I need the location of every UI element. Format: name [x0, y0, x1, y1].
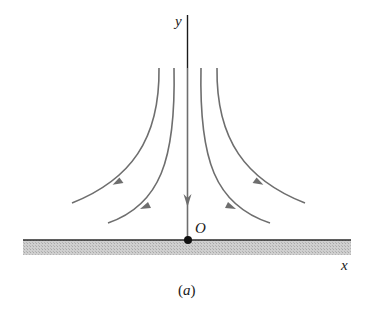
caption-close: ) [191, 282, 196, 298]
stagnation-flow-diagram [0, 0, 375, 314]
streamline-inner-left [108, 68, 174, 223]
caption-letter: a [183, 282, 191, 298]
origin-label: O [195, 221, 206, 236]
y-axis-label: y [175, 14, 182, 29]
arrow-outer-left-icon [112, 177, 124, 185]
streamline-inner-right [201, 68, 270, 223]
arrow-outer-right-icon [253, 177, 265, 185]
x-axis-label: x [341, 258, 348, 273]
origin-point [184, 236, 192, 244]
figure-caption: (a) [178, 283, 196, 298]
